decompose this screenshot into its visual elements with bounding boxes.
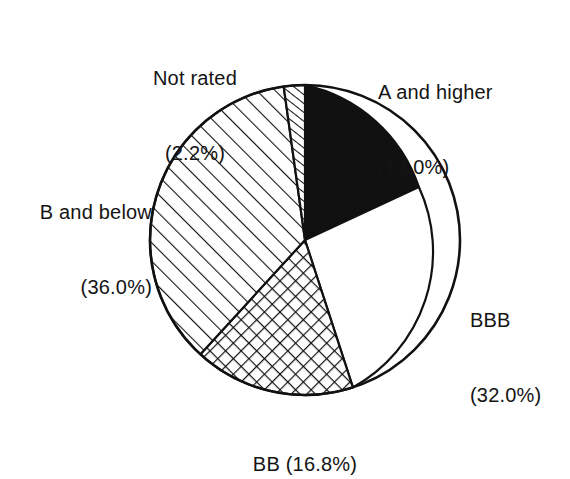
pie-label-a-and-higher-line1: A and higher	[378, 80, 568, 105]
pie-label-bb: BB (16.8%)	[155, 402, 455, 479]
pie-label-a-and-higher-line2: (13.0%)	[378, 155, 568, 180]
pie-label-b-and-below: B and below (36.0%)	[0, 150, 152, 350]
pie-label-bbb: BBB (32.0%)	[470, 258, 570, 458]
pie-label-b-and-below-line2: (36.0%)	[0, 275, 152, 300]
pie-label-b-and-below-line1: B and below	[0, 200, 152, 225]
pie-label-bb-line1: BB (16.8%)	[155, 452, 455, 477]
pie-label-a-and-higher: A and higher (13.0%)	[378, 30, 568, 230]
pie-label-bbb-line2: (32.0%)	[470, 383, 570, 408]
pie-label-bbb-line1: BBB	[470, 308, 570, 333]
pie-label-not-rated-line1: Not rated	[0, 66, 390, 91]
